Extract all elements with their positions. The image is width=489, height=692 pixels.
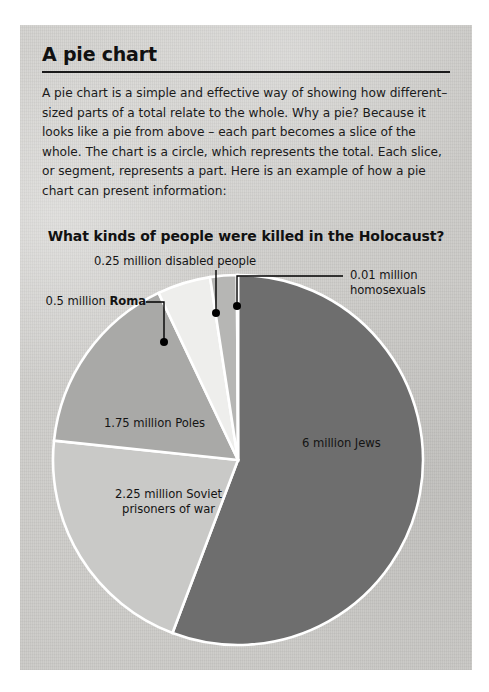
slice-label-soviet-line2: prisoners of war [115,502,222,518]
paper-page: A pie chart A pie chart is a simple and … [20,25,472,670]
slice-label-poles: 1.75 million Poles [104,416,205,432]
slice-label-homosexuals: 0.01 million homosexuals [350,268,426,299]
slice-label-soviet-line1: 2.25 million Soviet [115,487,222,503]
pie-chart: 6 million Jews 2.25 million Soviet priso… [20,250,472,692]
callout-dot-roma [160,338,168,346]
callout-dot-homosexuals [233,302,241,310]
slice-label-homosexuals-line2: homosexuals [350,283,426,299]
pie-chart-svg [20,250,472,692]
callout-dot-disabled [212,309,220,317]
title-divider [42,71,450,73]
page-title: A pie chart [42,43,450,65]
slice-label-disabled: 0.25 million disabled people [94,254,256,270]
slice-label-roma: 0.5 million Roma [20,294,146,310]
roma-prefix: 0.5 million [46,294,110,308]
slice-label-soviet: 2.25 million Soviet prisoners of war [115,487,222,518]
roma-bold: Roma [109,294,146,308]
intro-paragraph: A pie chart is a simple and effective wa… [42,84,450,202]
chart-title: What kinds of people were killed in the … [42,228,450,244]
slice-label-jews: 6 million Jews [302,436,381,452]
slice-label-homosexuals-line1: 0.01 million [350,268,426,284]
pie-slices [53,275,423,645]
